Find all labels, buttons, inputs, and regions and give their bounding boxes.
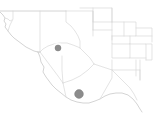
- map-canvas: [0, 0, 160, 114]
- marker-upper[interactable]: [55, 45, 61, 51]
- landmass-fill: [2, 10, 152, 100]
- marker-lower[interactable]: [75, 90, 84, 99]
- map-container: [0, 0, 160, 114]
- region-fills: [2, 10, 152, 100]
